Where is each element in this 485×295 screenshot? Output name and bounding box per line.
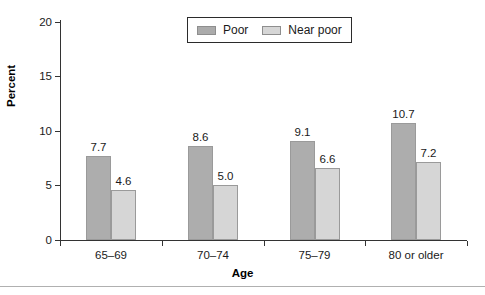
x-label-65-69: 65–69	[60, 250, 162, 262]
bar-value-label-near-poor-0: 4.6	[103, 176, 144, 188]
x-label-75-79: 75–79	[264, 250, 365, 262]
x-tick-2	[264, 241, 265, 246]
x-tick-3	[365, 241, 366, 246]
x-label-80-or-older: 80 or older	[365, 250, 467, 262]
bar-value-label-poor-3: 10.7	[383, 109, 424, 121]
bar-near-poor-0	[111, 190, 136, 240]
bar-value-label-near-poor-1: 5.0	[205, 171, 246, 183]
bar-near-poor-2	[315, 168, 340, 240]
bar-poor-3	[391, 123, 416, 240]
bar-value-label-poor-0: 7.7	[78, 142, 119, 154]
y-tick-label-1: 5	[12, 180, 52, 192]
footer-divider	[0, 286, 485, 287]
bar-poor-0	[86, 156, 111, 240]
bar-chart-figure: Poor Near poor 0 5 10 15 20 65–69 70–74 …	[0, 0, 485, 295]
bar-near-poor-1	[213, 185, 238, 240]
plot-area: 0 5 10 15 20 65–69 70–74 75–79 80 or old…	[0, 0, 485, 295]
x-axis-title: Age	[0, 268, 485, 280]
y-tick-label-3: 15	[12, 71, 52, 83]
y-axis-line	[60, 20, 61, 241]
bar-value-label-poor-2: 9.1	[282, 127, 323, 139]
x-tick-4	[467, 241, 468, 246]
y-tick-2	[55, 131, 60, 132]
x-label-70-74: 70–74	[162, 250, 264, 262]
bar-poor-1	[188, 146, 213, 240]
x-tick-0	[60, 241, 61, 246]
bar-value-label-poor-1: 8.6	[180, 132, 221, 144]
x-tick-1	[162, 241, 163, 246]
y-tick-4	[55, 22, 60, 23]
bar-value-label-near-poor-2: 6.6	[307, 154, 348, 166]
bar-value-label-near-poor-3: 7.2	[408, 148, 449, 160]
y-tick-label-0: 0	[12, 235, 52, 247]
y-tick-label-4: 20	[12, 17, 52, 29]
bar-near-poor-3	[416, 162, 441, 240]
y-tick-3	[55, 76, 60, 77]
y-axis-title: Percent	[6, 65, 18, 107]
y-tick-label-2: 10	[12, 126, 52, 138]
y-tick-1	[55, 185, 60, 186]
